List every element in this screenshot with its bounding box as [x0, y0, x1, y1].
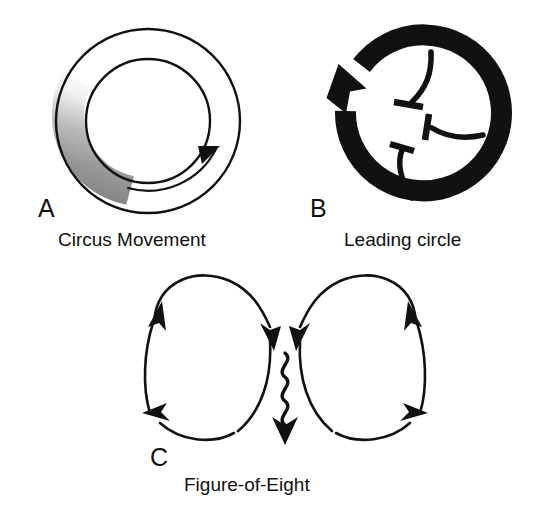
panel-c-caption: Figure-of-Eight — [184, 475, 310, 494]
panel-a-circus-movement: A Circus Movement — [30, 18, 270, 268]
right-loop-ascending-arc — [417, 323, 425, 413]
panel-a-letter: A — [38, 196, 55, 221]
panel-b-letter: B — [310, 196, 327, 221]
annulus-inner-circle — [86, 59, 210, 183]
left-loop-descending-arc — [238, 341, 270, 431]
centripetal-wavelet-top — [412, 52, 431, 102]
leading-circle-ring — [345, 35, 501, 191]
panel-c-figure-of-eight: C Figure-of-Eight — [120, 265, 450, 510]
central-wavy-isthmus — [282, 353, 288, 425]
right-loop-lower-arc — [336, 423, 410, 440]
panel-a-caption: Circus Movement — [58, 230, 206, 249]
left-loop-upper-arc — [154, 275, 270, 327]
centripetal-wavelet-top-block-bar — [394, 102, 423, 107]
left-loop-ascending-arc — [145, 323, 153, 413]
leading-circle-diagram — [290, 18, 535, 218]
figure-of-eight-diagram — [120, 265, 450, 470]
right-loop-bottom-arrowhead — [400, 403, 428, 421]
central-isthmus-arrowhead — [272, 417, 298, 445]
right-loop-upper-arc — [300, 275, 416, 327]
panel-b-caption: Leading circle — [344, 230, 461, 249]
panel-b-leading-circle: B Leading circle — [290, 18, 535, 268]
leading-circle-arrowhead — [327, 64, 367, 114]
circus-movement-diagram — [30, 18, 270, 218]
panel-c-letter: C — [150, 445, 168, 470]
centripetal-wavelet-right-block-bar — [425, 114, 429, 140]
centripetal-wavelet-right — [432, 128, 483, 137]
left-loop-lower-arc — [160, 423, 234, 440]
right-loop-descending-arc — [300, 341, 332, 431]
left-loop-bottom-arrowhead — [142, 403, 170, 421]
centripetal-wavelet-bottom-block-bar — [390, 144, 414, 151]
arrhythmia-mechanism-figure: A Circus Movement B Leading circle — [0, 0, 542, 518]
